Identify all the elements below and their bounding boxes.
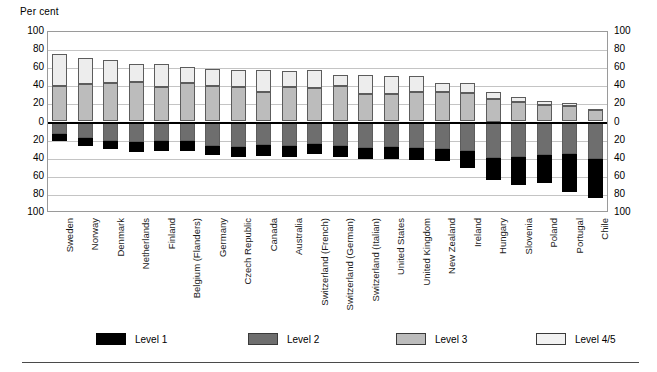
bar-segment: [562, 122, 577, 155]
bar-segment: [409, 92, 424, 122]
bar-segment: [409, 148, 424, 161]
bar-segment: [537, 105, 552, 121]
bar-segment: [78, 58, 93, 84]
bar-segment: [486, 99, 501, 122]
bar-segment: [358, 75, 373, 94]
bar-segment: [562, 106, 577, 121]
bar-segment: [562, 103, 577, 106]
legend-swatch-level45: [536, 333, 566, 345]
bar-segment: [154, 64, 169, 87]
y-tick-label-left: 40: [16, 80, 44, 90]
bar-segment: [256, 145, 271, 156]
bar-segment: [307, 88, 322, 121]
bar-segment: [562, 154, 577, 192]
category-label: Ireland: [472, 218, 483, 247]
bar-segment: [52, 86, 67, 121]
bar-segment: [307, 70, 322, 88]
y-tick-label-right: 80: [614, 44, 644, 54]
bar-segment: [307, 122, 322, 145]
bar-segment: [52, 134, 67, 141]
bar-segment: [435, 92, 450, 122]
bar-segment: [231, 122, 246, 147]
bar-segment: [384, 76, 399, 94]
y-tick-label-right: 80: [614, 189, 644, 199]
bar-segment: [205, 146, 220, 155]
bar-segment: [103, 60, 118, 83]
bar-segment: [103, 83, 118, 122]
bar-segment: [205, 69, 220, 86]
bar-segment: [78, 84, 93, 121]
bar-segment: [52, 54, 67, 87]
bar-segment: [409, 76, 424, 91]
category-label: Germany: [217, 218, 228, 257]
chart-legend: Level 1Level 2Level 3Level 4/5: [96, 331, 596, 349]
bar-segment: [486, 158, 501, 181]
category-label: New Zealand: [446, 218, 457, 274]
bar-segment: [103, 141, 118, 148]
y-tick-label-left: 20: [16, 135, 44, 145]
category-label: Poland: [548, 218, 559, 248]
zero-axis-line: [48, 122, 607, 124]
legend-item-level1[interactable]: Level 1: [96, 331, 167, 347]
legend-swatch-level1: [96, 333, 126, 345]
y-tick-label-left: 40: [16, 153, 44, 163]
bar-segment: [460, 83, 475, 93]
category-label: Australia: [293, 218, 304, 255]
bar-segment: [358, 94, 373, 121]
bar-segment: [588, 159, 603, 199]
bar-segment: [384, 122, 399, 147]
bar-segment: [78, 122, 93, 138]
y-tick-label-right: 0: [614, 117, 644, 127]
category-label: Chile: [599, 218, 610, 240]
category-label: Switzerland (German): [344, 218, 355, 310]
legend-item-level2[interactable]: Level 2: [248, 331, 319, 347]
bar-segment: [129, 82, 144, 122]
bar-segment: [358, 122, 373, 148]
bar-segment: [282, 87, 297, 121]
category-label: United Kingdom: [421, 218, 432, 286]
bar-segment: [409, 122, 424, 148]
y-tick-label-right: 20: [614, 135, 644, 145]
legend-swatch-level2: [248, 333, 278, 345]
bar-segment: [256, 92, 271, 122]
category-label: Sweden: [64, 218, 75, 252]
category-label: Switzerland (Italian): [370, 218, 381, 301]
bar-segment: [384, 147, 399, 159]
bar-segment: [129, 122, 144, 143]
bar-segment: [588, 122, 603, 159]
legend-item-level3[interactable]: Level 3: [396, 331, 467, 347]
legend-label: Level 3: [435, 334, 467, 345]
bar-segment: [537, 101, 552, 106]
bar-segment: [460, 122, 475, 152]
bar-segment: [435, 83, 450, 92]
legend-label: Level 2: [287, 334, 319, 345]
category-label: Switzerland (French): [319, 218, 330, 306]
bar-segment: [256, 70, 271, 92]
bar-segment: [333, 122, 348, 146]
bar-segment: [435, 122, 450, 149]
bar-segment: [486, 122, 501, 158]
category-label-layer: SwedenNorwayDenmarkNetherlandsFinlandBel…: [47, 212, 608, 322]
bar-segment: [333, 146, 348, 157]
category-label: Denmark: [115, 218, 126, 257]
bar-segment: [154, 87, 169, 121]
category-label: Canada: [268, 218, 279, 251]
bar-segment: [282, 146, 297, 157]
bar-segment: [129, 64, 144, 82]
bar-segment: [180, 83, 195, 122]
chart-container: Per cent 1001008080606040402020002020404…: [0, 0, 657, 372]
bar-segment: [384, 94, 399, 121]
legend-swatch-level3: [396, 333, 426, 345]
bar-segment: [333, 75, 348, 86]
legend-item-level45[interactable]: Level 4/5: [536, 331, 616, 347]
bar-segment: [435, 149, 450, 162]
category-label: Netherlands: [140, 218, 151, 269]
bar-segment: [180, 122, 195, 141]
legend-label: Level 1: [135, 334, 167, 345]
bar-segment: [358, 148, 373, 160]
category-label: Czech Republic: [242, 218, 253, 285]
bar-segment: [511, 102, 526, 121]
legend-label: Level 4/5: [575, 334, 616, 345]
bar-segment: [154, 141, 169, 151]
y-tick-label-right: 40: [614, 153, 644, 163]
